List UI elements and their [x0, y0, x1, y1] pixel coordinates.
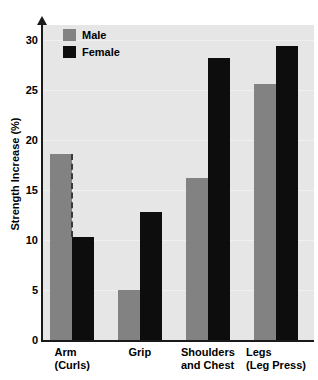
legend-item-male: Male — [63, 28, 120, 42]
x-axis-label-2: Shouldersand Chest — [181, 346, 235, 372]
bar-female-1 — [140, 212, 162, 340]
bar-male-1 — [118, 290, 140, 340]
bar-chart: 051015202530 Strength Increase (%) Male … — [0, 0, 318, 380]
bar-male-0 — [50, 154, 72, 340]
legend-swatch-female-icon — [63, 46, 76, 58]
legend-label-male: Male — [82, 29, 106, 41]
legend-label-female: Female — [82, 46, 120, 58]
x-axis-line — [41, 340, 314, 342]
legend-swatch-male-icon — [63, 29, 76, 41]
bar-female-2 — [208, 58, 230, 340]
x-axis-label-1: Grip — [129, 346, 152, 359]
y-tick-label: 5 — [4, 285, 38, 296]
x-axis-label-0: Arm(Curls) — [55, 346, 90, 372]
x-axis-label-3: Legs(Leg Press) — [246, 346, 306, 372]
y-tick-label: 0 — [4, 335, 38, 346]
dashed-reference-line — [71, 154, 73, 237]
x-axis-label-line1: Shoulders — [181, 346, 235, 358]
bar-female-0 — [72, 237, 94, 340]
bar-male-3 — [254, 84, 276, 340]
x-axis-label-line1: Grip — [129, 346, 152, 358]
bar-male-2 — [186, 178, 208, 340]
x-axis-label-line2: (Leg Press) — [246, 359, 306, 372]
y-axis-title: Strength Increase (%) — [9, 84, 21, 264]
y-axis-line — [41, 24, 43, 341]
x-axis-label-line1: Arm — [55, 346, 77, 358]
x-axis-label-line1: Legs — [246, 346, 272, 358]
chart-legend: Male Female — [63, 28, 120, 62]
y-tick-label: 30 — [4, 35, 38, 46]
legend-item-female: Female — [63, 45, 120, 59]
x-axis-label-line2: and Chest — [181, 359, 235, 372]
x-axis-label-line2: (Curls) — [55, 359, 90, 372]
bar-female-3 — [276, 46, 298, 340]
